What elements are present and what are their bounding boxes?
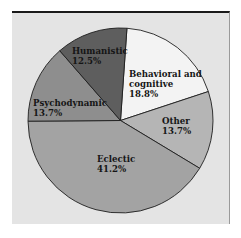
slice-label-other: Other13.7% bbox=[162, 116, 191, 136]
pie-chart: Behavioral andcognitive18.8%Other13.7%Ec… bbox=[0, 0, 241, 238]
